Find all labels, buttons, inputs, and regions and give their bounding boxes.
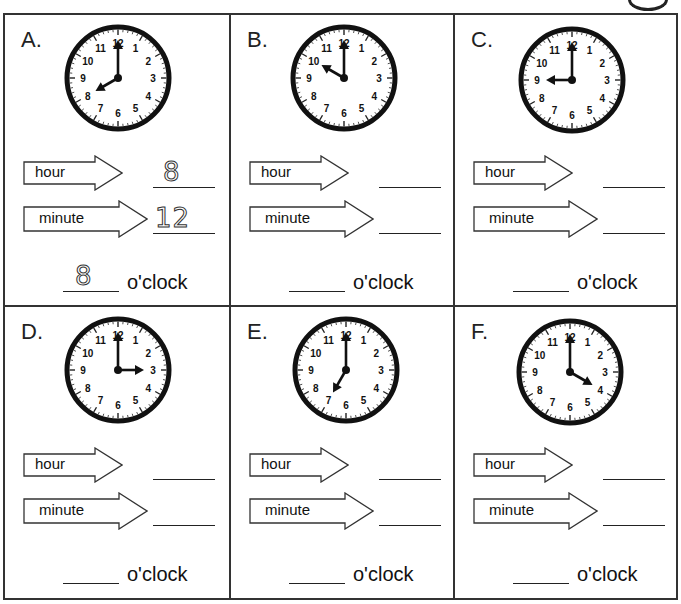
minute-label: minute <box>39 501 84 518</box>
hour-answer-field[interactable] <box>153 479 215 480</box>
oclock-answer-traced-value: 8 <box>75 261 93 291</box>
svg-text:5: 5 <box>359 103 365 114</box>
svg-text:7: 7 <box>324 103 330 114</box>
minute-answer-field[interactable] <box>379 233 441 234</box>
minute-label: minute <box>265 209 310 226</box>
minute-answer-field[interactable] <box>153 525 215 526</box>
problem-letter: C. <box>471 27 493 53</box>
svg-text:11: 11 <box>323 335 334 346</box>
problem-letter: D. <box>21 319 43 345</box>
hour-answer-traced-value: 8 <box>163 157 181 187</box>
oclock-label: o'clock <box>353 563 414 586</box>
svg-text:4: 4 <box>146 383 152 394</box>
svg-text:7: 7 <box>98 103 104 114</box>
svg-text:5: 5 <box>585 397 591 408</box>
clock-problem-a: A. 121234567891011 hour minute o'clock 8… <box>5 15 229 307</box>
minute-answer-field[interactable] <box>603 233 665 234</box>
problem-letter: F. <box>471 319 488 345</box>
svg-text:9: 9 <box>532 367 538 378</box>
problem-letter: B. <box>247 27 268 53</box>
svg-text:9: 9 <box>306 73 312 84</box>
svg-text:11: 11 <box>95 43 106 54</box>
page-number-badge-icon <box>628 0 668 11</box>
svg-text:3: 3 <box>150 73 156 84</box>
svg-text:6: 6 <box>341 108 347 119</box>
svg-text:9: 9 <box>80 365 86 376</box>
svg-text:8: 8 <box>85 383 91 394</box>
svg-text:6: 6 <box>567 402 573 413</box>
svg-text:10: 10 <box>82 56 94 67</box>
svg-text:6: 6 <box>115 108 121 119</box>
svg-text:10: 10 <box>536 58 548 69</box>
oclock-answer-field[interactable] <box>513 291 569 292</box>
hour-arrow-label: hour <box>23 155 123 191</box>
svg-text:8: 8 <box>537 385 543 396</box>
oclock-label: o'clock <box>353 271 414 294</box>
hour-arrow-label: hour <box>249 447 349 483</box>
svg-text:7: 7 <box>550 397 556 408</box>
analog-clock-icon: 121234567891011 <box>60 20 176 136</box>
minute-label: minute <box>265 501 310 518</box>
svg-text:4: 4 <box>600 93 606 104</box>
oclock-label: o'clock <box>577 563 638 586</box>
svg-text:10: 10 <box>308 56 320 67</box>
svg-text:4: 4 <box>374 383 380 394</box>
hour-arrow-label: hour <box>249 155 349 191</box>
minute-label: minute <box>39 209 84 226</box>
oclock-label: o'clock <box>127 563 188 586</box>
svg-text:5: 5 <box>133 103 139 114</box>
hour-arrow-label: hour <box>23 447 123 483</box>
minute-arrow-label: minute <box>473 200 598 238</box>
clock-problem-b: B. 121234567891011 hour minute o'clock <box>231 15 455 307</box>
svg-text:3: 3 <box>376 73 382 84</box>
minute-arrow-label: minute <box>23 492 148 530</box>
analog-clock-icon: 121234567891011 <box>288 312 404 428</box>
svg-text:2: 2 <box>374 348 380 359</box>
oclock-answer-field[interactable] <box>63 291 119 292</box>
hour-answer-field[interactable] <box>603 187 665 188</box>
svg-text:2: 2 <box>146 348 152 359</box>
problem-letter: A. <box>21 27 42 53</box>
minute-arrow-label: minute <box>473 492 598 530</box>
svg-text:2: 2 <box>372 56 378 67</box>
svg-text:7: 7 <box>98 395 104 406</box>
hour-label: hour <box>261 163 291 180</box>
svg-text:4: 4 <box>146 91 152 102</box>
svg-text:7: 7 <box>326 395 332 406</box>
hour-label: hour <box>485 455 515 472</box>
hour-answer-field[interactable] <box>603 479 665 480</box>
svg-text:2: 2 <box>598 350 604 361</box>
svg-text:5: 5 <box>587 105 593 116</box>
svg-text:10: 10 <box>534 350 546 361</box>
hour-answer-field[interactable] <box>379 479 441 480</box>
oclock-answer-field[interactable] <box>289 583 345 584</box>
minute-answer-field[interactable] <box>153 233 215 234</box>
svg-text:6: 6 <box>343 400 349 411</box>
minute-answer-field[interactable] <box>379 525 441 526</box>
svg-text:8: 8 <box>85 91 91 102</box>
svg-text:6: 6 <box>115 400 121 411</box>
clock-problem-c: C. 121234567891011 hour minute o'clock <box>455 15 679 307</box>
hour-label: hour <box>35 163 65 180</box>
svg-text:3: 3 <box>602 367 608 378</box>
oclock-answer-field[interactable] <box>513 583 569 584</box>
minute-answer-field[interactable] <box>603 525 665 526</box>
svg-text:1: 1 <box>585 337 591 348</box>
svg-text:8: 8 <box>311 91 317 102</box>
oclock-answer-field[interactable] <box>63 583 119 584</box>
svg-text:11: 11 <box>321 43 332 54</box>
oclock-label: o'clock <box>577 271 638 294</box>
clock-problem-d: D. 121234567891011 hour minute o'clock <box>5 307 229 599</box>
svg-text:9: 9 <box>80 73 86 84</box>
svg-text:3: 3 <box>150 365 156 376</box>
svg-text:10: 10 <box>82 348 94 359</box>
hour-answer-field[interactable] <box>379 187 441 188</box>
clock-problem-e: E. 121234567891011 hour minute o'clock <box>231 307 455 599</box>
oclock-answer-field[interactable] <box>289 291 345 292</box>
svg-text:7: 7 <box>552 105 558 116</box>
svg-text:1: 1 <box>359 43 365 54</box>
clock-problem-f: F. 121234567891011 hour minute o'clock <box>455 307 679 599</box>
svg-text:5: 5 <box>361 395 367 406</box>
hour-answer-field[interactable] <box>153 187 215 188</box>
minute-arrow-label: minute <box>23 200 148 238</box>
